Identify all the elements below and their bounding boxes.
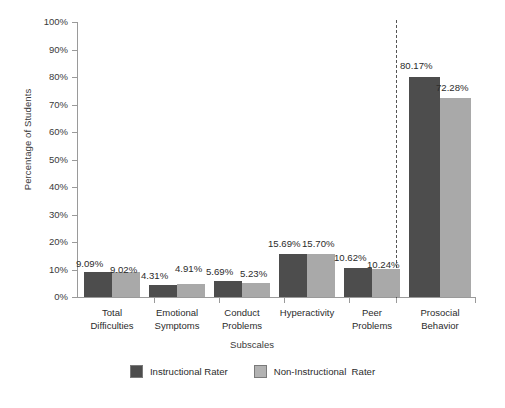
bar-value-conduct-problems-non-instructional: 5.23% <box>240 268 267 279</box>
y-tick-30 <box>72 215 78 216</box>
y-tick-label-0: 0% <box>18 291 68 302</box>
bar-value-emotional-symptoms-instructional: 4.31% <box>141 270 168 281</box>
x-category-line-2: Symptoms <box>142 319 212 332</box>
y-tick-label-30: 30% <box>18 209 68 220</box>
y-tick-label-80: 80% <box>18 71 68 82</box>
y-tick-label-40: 40% <box>18 181 68 192</box>
bar-emotional-symptoms-instructional <box>149 285 177 297</box>
bar-peer-problems-non-instructional <box>372 269 400 297</box>
x-category-line-1: Hyperactivity <box>272 306 342 319</box>
bar-hyperactivity-instructional <box>279 254 307 297</box>
y-tick-label-60: 60% <box>18 126 68 137</box>
x-tick-6 <box>475 298 476 303</box>
bar-prosocial-behavior-instructional <box>409 77 440 298</box>
legend-label-instructional-rater: Instructional Rater <box>150 366 228 377</box>
x-tick-1 <box>154 298 155 303</box>
bar-conduct-problems-non-instructional <box>242 283 270 297</box>
bar-hyperactivity-non-instructional <box>307 254 335 297</box>
legend-swatch-icon-instructional <box>130 365 143 378</box>
x-category-line-2: Problems <box>337 319 407 332</box>
y-tick-label-10: 10% <box>18 264 68 275</box>
y-tick-60 <box>72 132 78 133</box>
y-tick-40 <box>72 187 78 188</box>
bar-peer-problems-instructional <box>344 268 372 297</box>
legend-item-non-instructional-rater[interactable]: Non-Instructional Rater <box>254 365 375 378</box>
x-category-line-1: Conduct <box>207 306 277 319</box>
x-category-line-1: Emotional <box>142 306 212 319</box>
y-tick-80 <box>72 77 78 78</box>
y-tick-50 <box>72 160 78 161</box>
bar-value-hyperactivity-instructional: 15.69% <box>268 238 301 249</box>
x-category-hyperactivity: Hyperactivity <box>272 306 342 319</box>
x-tick-5 <box>396 298 397 303</box>
x-category-line-1: Total <box>77 306 147 319</box>
x-category-line-1: Prosocial <box>405 306 475 319</box>
x-category-line-2: Problems <box>207 319 277 332</box>
y-tick-label-20: 20% <box>18 236 68 247</box>
bar-value-conduct-problems-instructional: 5.69% <box>206 266 233 277</box>
legend-item-instructional-rater[interactable]: Instructional Rater <box>130 365 228 378</box>
x-category-conduct-problems: Conduct Problems <box>207 306 277 332</box>
y-tick-70 <box>72 105 78 106</box>
bar-value-hyperactivity-non-instructional: 15.70% <box>302 238 335 249</box>
bar-prosocial-behavior-non-instructional <box>440 98 471 297</box>
bar-value-total-difficulties-instructional: 9.09% <box>76 258 103 269</box>
prosocial-divider-line <box>396 20 397 298</box>
legend-label-non-instructional-rater: Non-Instructional Rater <box>274 366 375 377</box>
x-category-peer-problems: Peer Problems <box>337 306 407 332</box>
bar-value-prosocial-behavior-instructional: 80.17% <box>400 60 433 71</box>
x-category-line-2: Difficulties <box>77 319 147 332</box>
y-tick-100 <box>72 22 78 23</box>
y-tick-label-70: 70% <box>18 99 68 110</box>
y-tick-label-90: 90% <box>18 44 68 55</box>
y-tick-label-100: 100% <box>18 16 68 27</box>
y-tick-90 <box>72 50 78 51</box>
x-tick-4 <box>349 298 350 303</box>
y-tick-10 <box>72 270 78 271</box>
bar-value-emotional-symptoms-non-instructional: 4.91% <box>175 263 202 274</box>
x-tick-3 <box>284 298 285 303</box>
x-tick-2 <box>219 298 220 303</box>
bar-total-difficulties-non-instructional <box>112 272 140 297</box>
legend-swatch-icon-non-instructional <box>254 365 267 378</box>
bar-value-peer-problems-non-instructional: 10.24% <box>367 259 400 270</box>
x-axis-title: Subscales <box>202 339 302 350</box>
x-category-line-1: Peer <box>337 306 407 319</box>
x-category-line-2: Behavior <box>405 319 475 332</box>
x-category-emotional-symptoms: Emotional Symptoms <box>142 306 212 332</box>
bar-total-difficulties-instructional <box>84 272 112 297</box>
bar-emotional-symptoms-non-instructional <box>177 284 205 298</box>
bar-value-total-difficulties-non-instructional: 9.02% <box>110 264 137 275</box>
y-tick-0 <box>72 297 78 298</box>
bar-conduct-problems-instructional <box>214 281 242 297</box>
x-category-prosocial-behavior: Prosocial Behavior <box>405 306 475 332</box>
x-axis-line <box>77 297 476 298</box>
bar-chart: Percentage of Students 0% 10% 20% 30% 40… <box>0 0 505 408</box>
bar-value-prosocial-behavior-non-instructional: 72.28% <box>436 82 469 93</box>
y-tick-label-50: 50% <box>18 154 68 165</box>
chart-legend: Instructional Rater Non-Instructional Ra… <box>0 365 505 378</box>
bar-value-peer-problems-instructional: 10.62% <box>334 252 367 263</box>
x-category-total-difficulties: Total Difficulties <box>77 306 147 332</box>
y-tick-20 <box>72 242 78 243</box>
